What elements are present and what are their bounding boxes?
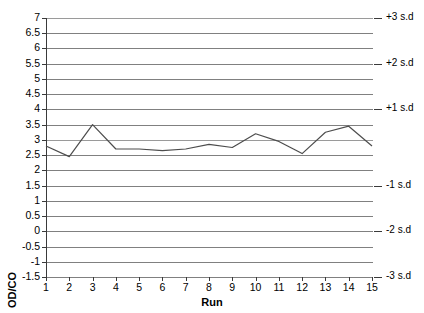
levey-jennings-chart: OD/CO 76.565.554.543.532.521.510.50-0.5-… <box>0 0 424 313</box>
data-series-line <box>0 0 424 313</box>
x-axis-title: Run <box>0 296 424 308</box>
series-polyline <box>46 125 372 157</box>
